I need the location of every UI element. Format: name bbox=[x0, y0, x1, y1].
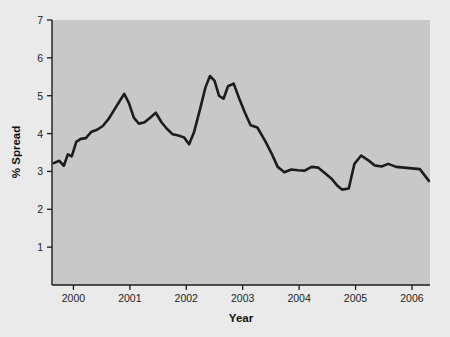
x-tick-label: 2002 bbox=[175, 292, 199, 304]
x-tick-label: 2000 bbox=[62, 292, 86, 304]
line-chart-svg: 1234567 2000200120022003200420052006 Yea… bbox=[0, 0, 450, 337]
x-tick-label: 2005 bbox=[344, 292, 368, 304]
x-tick-label: 2006 bbox=[400, 292, 424, 304]
chart-figure: 1234567 2000200120022003200420052006 Yea… bbox=[0, 0, 450, 337]
y-tick-label: 4 bbox=[37, 128, 43, 140]
y-axis-title: % Spread bbox=[10, 126, 22, 178]
x-tick-label: 2001 bbox=[118, 292, 142, 304]
y-tick-label: 6 bbox=[37, 52, 43, 64]
y-tick-label: 7 bbox=[37, 14, 43, 26]
x-tick-label: 2004 bbox=[287, 292, 311, 304]
y-tick-label: 2 bbox=[37, 203, 43, 215]
x-tick-label: 2003 bbox=[231, 292, 255, 304]
plot-area-background bbox=[52, 20, 430, 285]
x-axis-title: Year bbox=[229, 312, 254, 324]
y-tick-label: 1 bbox=[37, 241, 43, 253]
y-tick-label: 5 bbox=[37, 90, 43, 102]
y-tick-label: 3 bbox=[37, 165, 43, 177]
